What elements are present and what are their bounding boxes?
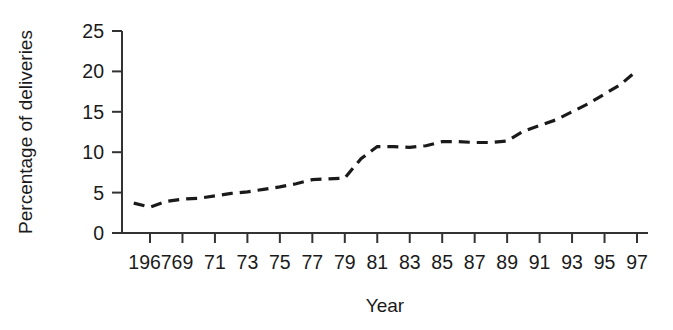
x-axis-title: Year [366,295,405,316]
x-tick-label: 85 [431,251,453,273]
y-tick-label: 15 [82,101,104,123]
y-tick-label: 25 [82,20,104,42]
x-tick-label: 77 [301,251,323,273]
x-tick-label: 71 [204,251,226,273]
chart-background [0,0,673,330]
chart-figure: 0510152025 19676971737577798183858789919… [0,0,673,330]
x-tick-label: 89 [496,251,518,273]
y-tick-label: 20 [82,60,104,82]
x-tick-label: 79 [334,251,356,273]
y-tick-label: 10 [82,141,104,163]
x-tick-label: 87 [464,251,486,273]
x-tick-label: 1967 [128,251,171,273]
x-tick-label: 97 [626,251,648,273]
x-tick-label: 93 [561,251,583,273]
x-tick-label-group: 1967697173757779818385878991939597 [128,251,648,273]
x-tick-label: 73 [237,251,259,273]
y-tick-label: 0 [93,222,104,244]
y-tick-label: 5 [93,182,104,204]
x-tick-label: 91 [529,251,551,273]
x-tick-label: 83 [399,251,421,273]
x-tick-label: 75 [269,251,291,273]
x-tick-label: 95 [594,251,616,273]
y-axis-title: Percentage of deliveries [15,30,36,234]
x-tick-label: 69 [172,251,194,273]
x-tick-label: 81 [366,251,388,273]
